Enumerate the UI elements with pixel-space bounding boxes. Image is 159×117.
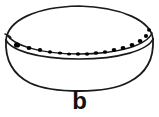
decoration-dot: [112, 48, 117, 52]
decoration-dot: [38, 48, 42, 52]
decoration-dot: [103, 50, 107, 54]
decoration-dot: [27, 46, 32, 50]
decoration-dot: [130, 43, 135, 47]
decoration-dot: [67, 52, 71, 55]
decoration-dot: [121, 46, 126, 50]
decoration-dot: [14, 42, 20, 47]
decoration-dot: [138, 39, 143, 43]
decoration-dot: [94, 51, 99, 55]
decoration-dot: [144, 34, 148, 38]
decoration-dot: [58, 51, 62, 54]
figure-label: b: [0, 88, 159, 114]
figure-container: b: [0, 0, 159, 117]
decoration-dot: [76, 52, 80, 55]
decoration-dot: [48, 50, 52, 53]
decoration-dot: [147, 28, 151, 32]
decoration-dot: [85, 52, 89, 55]
